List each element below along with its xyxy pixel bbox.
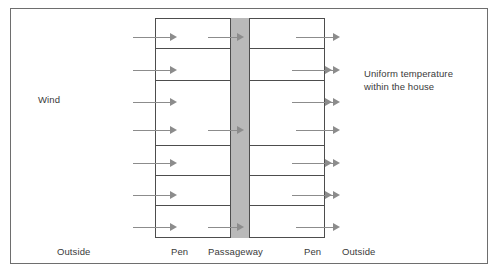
- arrow-shaft: [133, 163, 170, 164]
- pen-left-label: Pen: [171, 246, 188, 259]
- arrow-shaft: [296, 163, 333, 164]
- pen-divider-left-2: [155, 80, 230, 81]
- arrow-head-icon: [333, 98, 340, 106]
- arrow-shaft: [133, 37, 170, 38]
- pen-divider-right-1: [250, 48, 325, 49]
- arrow-head-icon: [333, 191, 340, 199]
- pen-right-label: Pen: [304, 246, 321, 259]
- pen-divider-left-4: [155, 175, 230, 176]
- arrow-head-icon: [170, 223, 177, 231]
- pen-divider-right-3: [250, 145, 325, 146]
- arrow-head-icon: [237, 33, 244, 41]
- arrow-shaft: [296, 195, 333, 196]
- arrow-head-icon: [333, 223, 340, 231]
- arrow-head-icon: [170, 159, 177, 167]
- passageway-label: Passageway: [208, 246, 263, 259]
- arrow-shaft: [296, 227, 333, 228]
- arrow-shaft: [208, 37, 237, 38]
- arrow-head-icon: [237, 126, 244, 134]
- pen-divider-left-3: [155, 145, 230, 146]
- arrow-shaft: [133, 195, 170, 196]
- uniform-temperature-label-line2: within the house: [364, 81, 434, 94]
- outside-left-label: Outside: [57, 246, 90, 259]
- arrow-shaft: [296, 37, 333, 38]
- pen-divider-right-5: [250, 205, 325, 206]
- outside-right-label: Outside: [342, 246, 375, 259]
- arrow-head-icon: [333, 33, 340, 41]
- uniform-temperature-label-line1: Uniform temperature: [364, 68, 453, 81]
- arrow-shaft: [133, 102, 170, 103]
- arrow-shaft: [208, 227, 237, 228]
- arrow-shaft: [133, 227, 170, 228]
- arrow-shaft: [133, 70, 170, 71]
- pen-divider-right-2: [250, 80, 325, 81]
- arrow-head-icon: [333, 66, 340, 74]
- arrow-shaft: [296, 102, 333, 103]
- arrow-head-icon: [170, 191, 177, 199]
- wind-label: Wind: [38, 94, 60, 107]
- diagram-canvas: Wind Uniform temperature within the hous…: [0, 0, 499, 277]
- arrow-head-icon: [237, 223, 244, 231]
- arrow-shaft: [296, 130, 333, 131]
- arrow-head-icon: [170, 126, 177, 134]
- pen-divider-right-4: [250, 175, 325, 176]
- arrow-head-icon: [170, 98, 177, 106]
- arrow-shaft: [208, 130, 237, 131]
- pen-divider-left-1: [155, 48, 230, 49]
- arrow-head-icon: [333, 126, 340, 134]
- pen-divider-left-5: [155, 205, 230, 206]
- arrow-head-icon: [170, 33, 177, 41]
- arrow-head-icon: [333, 159, 340, 167]
- arrow-head-icon: [170, 66, 177, 74]
- arrow-shaft: [296, 70, 333, 71]
- arrow-shaft: [133, 130, 170, 131]
